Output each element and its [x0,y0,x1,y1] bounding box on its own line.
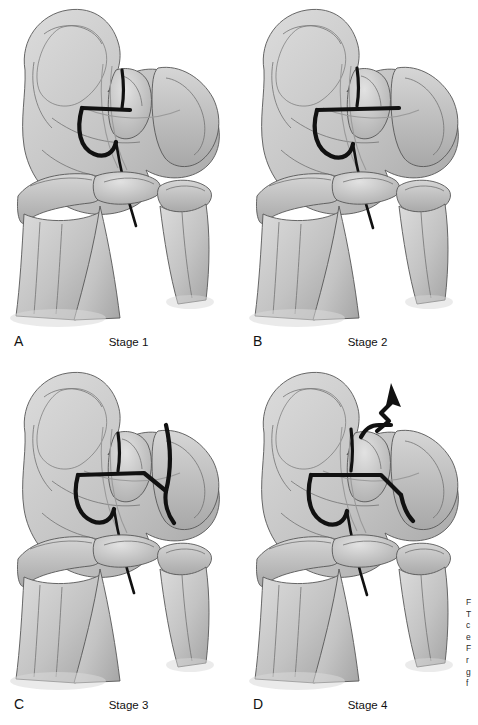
illustration-stage-4 [239,363,478,693]
panel-caption-stage-4: Stage 4 [239,699,478,711]
panel-stage-2: B Stage 2 [239,0,478,362]
panel-caption-stage-2: Stage 2 [239,336,478,348]
figure-legend-clipped: F T c e F r g f [466,597,478,690]
panel-caption-stage-1: Stage 1 [0,336,239,348]
legend-line-6: r [466,655,478,667]
panel-stage-3: C Stage 3 [0,363,239,725]
legend-line-3: c [466,620,478,632]
legend-line-2: T [466,609,478,621]
figure-sheet: A Stage 1 [0,0,478,725]
illustration-stage-3 [0,363,239,693]
legend-line-4: e [466,632,478,644]
illustration-stage-1 [0,0,239,330]
legend-line-5: F [466,643,478,655]
legend-line-8: f [466,678,478,690]
panel-stage-4: D Stage 4 [239,363,478,725]
panel-stage-1: A Stage 1 [0,0,239,362]
illustration-stage-2 [239,0,478,330]
legend-line-7: g [466,667,478,679]
legend-line-1: F [466,597,478,609]
panel-caption-stage-3: Stage 3 [0,699,239,711]
